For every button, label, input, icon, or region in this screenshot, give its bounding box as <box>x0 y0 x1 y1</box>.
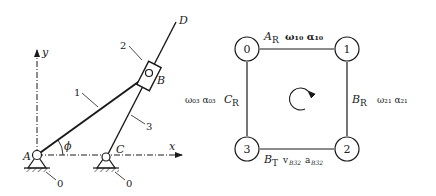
contour-graph: 0 1 2 3 A R ω₁₀ α₁₀ B R ω₂₁ α₂₁ B T v B3… <box>185 30 408 168</box>
edge-right-sub: R <box>360 98 367 108</box>
edge-bottom-sub: T <box>272 158 278 168</box>
edge-bottom-v-sub: B32 <box>288 159 301 166</box>
edge-top-sub: R <box>272 35 279 45</box>
edge-right-quantities: ω₂₁ α₂₁ <box>377 95 408 105</box>
edge-top-joint: A <box>263 30 272 43</box>
link-1 <box>37 80 141 155</box>
link-3-label: 3 <box>146 121 152 132</box>
edge-bottom-joint: B <box>263 153 272 166</box>
link-2-label: 2 <box>120 40 126 51</box>
edge-bottom-a-sub: B32 <box>310 159 323 166</box>
diagram-canvas: y x D B 2 1 3 ϕ A 0 <box>0 0 436 196</box>
node-2-label: 2 <box>344 143 351 156</box>
ground-a-label: 0 <box>57 178 63 189</box>
edge-bottom-v: v <box>282 155 289 165</box>
joint-c-label: C <box>116 143 125 156</box>
link-3-leader <box>131 115 145 124</box>
link-2-leader <box>129 46 142 60</box>
x-axis-label: x <box>169 140 176 153</box>
link-1-leader <box>82 93 98 107</box>
joint-a-label: A <box>22 150 31 163</box>
edge-left-quantities: ω₀₃ α₀₃ <box>185 95 216 105</box>
ground-a-leader <box>46 172 56 180</box>
y-axis-label: y <box>41 46 49 59</box>
joint-b-label: B <box>156 74 165 87</box>
angle-arc <box>58 140 63 155</box>
joint-b <box>146 70 153 77</box>
joint-d-label: D <box>178 14 188 27</box>
ground-c-label: 0 <box>126 178 132 189</box>
node-1-label: 1 <box>344 43 351 56</box>
edge-left-sub: R <box>232 98 239 108</box>
link-3 <box>106 22 176 158</box>
link-1-label: 1 <box>74 87 80 98</box>
edge-top-quantities: ω₁₀ α₁₀ <box>285 31 324 42</box>
angle-label: ϕ <box>64 140 72 153</box>
edge-right-joint: B <box>351 93 360 106</box>
ground-c-leader <box>115 172 125 180</box>
node-3-label: 3 <box>244 143 251 156</box>
node-0-label: 0 <box>244 43 251 56</box>
loop-direction-icon <box>289 88 308 110</box>
mechanism: y x D B 2 1 3 ϕ A 0 <box>22 14 188 189</box>
